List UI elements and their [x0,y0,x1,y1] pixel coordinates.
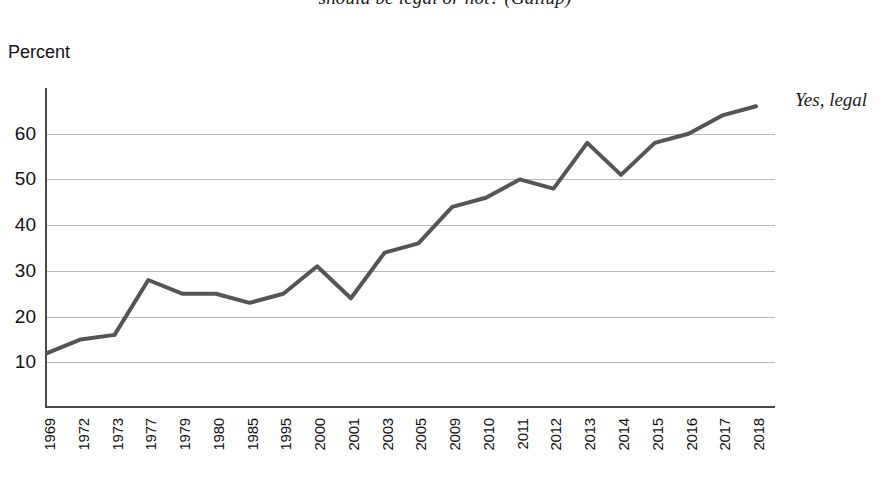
x-tick-label-1977: 1977 [142,418,159,451]
series-annotation-yes-legal: Yes, legal [795,89,867,111]
x-tick-label-2005: 2005 [412,418,429,451]
line-chart-figure: should be legal or not? (Gallup) Percent… [0,0,890,492]
chart-title: should be legal or not? (Gallup) [0,0,890,9]
x-tick-label-1995: 1995 [277,418,294,451]
y-tick-label-50: 50 [15,168,36,190]
x-tick-label-2014: 2014 [615,418,632,451]
x-tick-label-2017: 2017 [716,418,733,451]
x-tick-label-2000: 2000 [311,418,328,451]
x-tick-label-2003: 2003 [379,418,396,451]
y-tick-label-20: 20 [15,306,36,328]
x-tick-label-1972: 1972 [75,418,92,451]
x-tick-label-2010: 2010 [480,418,497,451]
y-tick-label-30: 30 [15,260,36,282]
y-tick-label-40: 40 [15,214,36,236]
x-tick-label-2012: 2012 [547,418,564,451]
x-tick-label-2001: 2001 [345,418,362,451]
x-tick-label-1973: 1973 [109,418,126,451]
x-tick-label-2013: 2013 [581,418,598,451]
x-tick-label-1969: 1969 [41,418,58,451]
y-tick-label-60: 60 [15,123,36,145]
x-tick-label-2015: 2015 [649,418,666,451]
series-polyline [47,106,756,353]
x-tick-label-1985: 1985 [244,418,261,451]
x-tick-label-2009: 2009 [446,418,463,451]
x-tick-label-2018: 2018 [750,418,767,451]
plot-area: 102030405060 196919721973197719791980198… [45,88,775,408]
y-tick-label-10: 10 [15,351,36,373]
y-axis-caption: Percent [8,42,70,63]
series-line-yes-legal [45,88,775,408]
x-tick-label-2016: 2016 [683,418,700,451]
x-tick-label-1979: 1979 [176,418,193,451]
x-tick-label-1980: 1980 [210,418,227,451]
x-tick-label-2011: 2011 [514,418,531,449]
